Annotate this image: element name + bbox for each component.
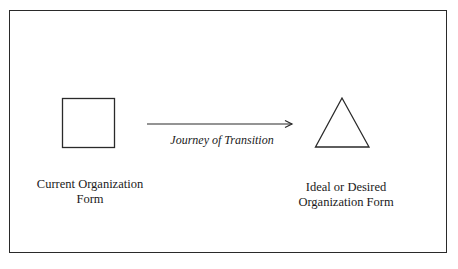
current-form-label: Current Organization Form — [20, 177, 160, 207]
transition-label: Journey of Transition — [150, 133, 294, 148]
ideal-form-label-line2: Organization Form — [276, 195, 416, 210]
current-form-label-line1: Current Organization — [20, 177, 160, 192]
ideal-form-label-line1: Ideal or Desired — [276, 180, 416, 195]
square-shape — [63, 99, 115, 148]
triangle-shape — [316, 98, 370, 147]
arrow-right-icon — [147, 121, 292, 128]
ideal-form-label: Ideal or Desired Organization Form — [276, 180, 416, 210]
current-form-label-line2: Form — [20, 192, 160, 207]
